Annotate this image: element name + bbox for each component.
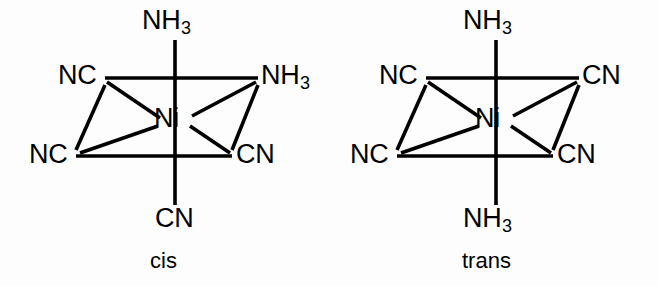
cis-label-axial-top: NH3 — [142, 7, 190, 34]
trans-label-metal-center: Ni — [475, 105, 500, 132]
bond-ni-back-left — [428, 82, 481, 118]
trans-label-front-right: CN — [557, 141, 595, 168]
structure-cis: NH3 NC NH3 NC CN CN Ni cis — [0, 0, 329, 286]
cis-label-axial-bottom: CN — [155, 205, 193, 232]
bond-ni-front-right — [190, 126, 230, 153]
cis-label-front-left: NC — [29, 141, 67, 168]
bond-ni-back-left — [107, 82, 160, 118]
cis-label-back-left: NC — [58, 62, 96, 89]
cis-label-front-right: CN — [236, 141, 274, 168]
isomer-figure: NH3 NC NH3 NC CN CN Ni cis NH3 NC CN NC … — [0, 0, 658, 286]
trans-isomer-name: trans — [462, 250, 511, 272]
cis-label-back-right: NH3 — [261, 62, 309, 89]
bond-ni-front-right — [511, 126, 551, 153]
bond-left-edge — [397, 85, 426, 150]
trans-label-back-right: CN — [582, 62, 620, 89]
bond-ni-front-left — [401, 126, 479, 153]
cis-isomer-name: cis — [150, 250, 177, 272]
trans-label-axial-bottom: NH3 — [463, 205, 511, 232]
trans-label-front-left: NC — [350, 141, 388, 168]
trans-label-back-left: NC — [379, 62, 417, 89]
trans-label-axial-top: NH3 — [463, 7, 511, 34]
bond-left-edge — [76, 85, 105, 150]
structure-trans: NH3 NC CN NC CN NH3 Ni trans — [329, 0, 658, 286]
cis-label-metal-center: Ni — [154, 105, 179, 132]
bond-ni-front-left — [80, 126, 158, 153]
